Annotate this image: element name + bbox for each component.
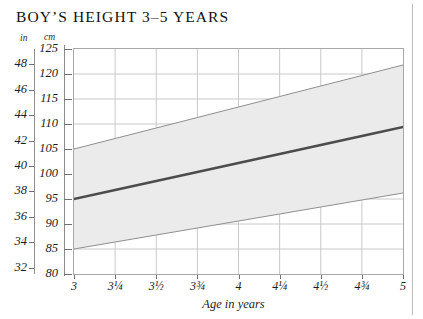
x-axis-title-text: Age in years [202,297,264,311]
y-tick-cm: 125 [32,41,58,56]
x-tickmark [239,275,240,279]
y-tick-in: 46 [7,82,27,97]
y-tickmark-cm [64,124,72,125]
y-tickmark-cm [64,199,72,200]
y-tick-cm: 100 [32,166,58,181]
x-tickmark [115,275,116,279]
y-tick-in: 40 [7,158,27,173]
y-tick-cm: 85 [32,241,58,256]
y-tickmark-cm [64,274,72,275]
plot-area [73,48,404,275]
x-tickmark [74,275,75,279]
chart-canvas [74,49,403,274]
y-tickmark-cm [64,74,72,75]
x-tick: 5 [383,279,423,294]
y-tickmark-in [29,166,34,167]
y-tickmark-cm [64,249,72,250]
y-tickmark-in [29,141,34,142]
y-tickmark-cm [64,174,72,175]
page-margin-rule [412,4,413,315]
y-tickmark-in [29,115,34,116]
x-tickmark [403,275,404,279]
y-tick-cm: 90 [32,216,58,231]
x-axis-title: Age in years [0,297,423,312]
y-tick-cm: 120 [32,66,58,81]
x-tickmark [321,275,322,279]
y-tickmark-in [29,268,34,269]
y-tickmark-in [29,191,34,192]
x-tick: 3¾ [177,279,217,294]
x-tick: 4½ [301,279,341,294]
x-tickmark [197,275,198,279]
y-tickmark-in [29,217,34,218]
x-tick: 4 [219,279,259,294]
x-tick: 4¼ [260,279,300,294]
x-tick: 3¼ [95,279,135,294]
y-tick-in: 38 [7,183,27,198]
y-tickmark-in [29,242,34,243]
y-tickmark-in [29,64,34,65]
y-tickmark-cm [64,49,72,50]
y-tick-cm: 115 [32,91,58,106]
y-tick-in: 42 [7,133,27,148]
y-tick-in: 32 [7,260,27,275]
page-title: BOY’S HEIGHT 3–5 YEARS [16,8,229,26]
y-tickmark-cm [64,149,72,150]
inches-unit-caption: in [20,33,27,43]
y-tick-in: 34 [7,234,27,249]
y-tick-cm: 110 [32,116,58,131]
y-tick-in: 44 [7,107,27,122]
y-tick-in: 48 [7,56,27,71]
height-chart-page: BOY’S HEIGHT 3–5 YEARS in cm Age in year… [0,0,423,319]
x-tick: 3½ [136,279,176,294]
y-tickmark-cm [64,224,72,225]
y-tick-cm: 105 [32,141,58,156]
x-tickmark [156,275,157,279]
y-tick-cm: 95 [32,191,58,206]
y-tickmark-cm [64,99,72,100]
y-tick-in: 36 [7,209,27,224]
y-tickmark-in [29,90,34,91]
cm-scale-rule [64,45,65,276]
x-tickmark [362,275,363,279]
x-tickmark [280,275,281,279]
x-tick: 4¾ [342,279,382,294]
x-tick: 3 [54,279,94,294]
